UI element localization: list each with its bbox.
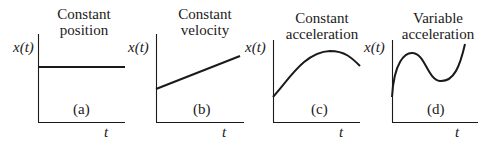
- panel-c-title: Constant acceleration: [280, 10, 364, 42]
- panel-d-label: (d): [427, 101, 445, 118]
- panel-b-xlabel: t: [222, 124, 226, 141]
- panel-d-curve: [392, 44, 465, 97]
- panel-a-xlabel: t: [104, 124, 108, 141]
- panel-c-curve: [273, 51, 360, 97]
- panel-b-curve: [156, 56, 240, 89]
- panel-a-title: Constant position: [42, 6, 126, 38]
- panel-b-title: Constant velocity: [163, 6, 247, 38]
- panel-d-xlabel: t: [455, 124, 459, 141]
- panel-c-xlabel: t: [339, 124, 343, 141]
- panel-b-label: (b): [193, 101, 211, 118]
- panel-c-label: (c): [311, 101, 328, 118]
- panel-b-ylabel: x(t): [128, 39, 149, 56]
- panel-d-title: Variable acceleration: [396, 10, 480, 42]
- panel-a-ylabel: x(t): [13, 39, 34, 56]
- panel-a-label: (a): [73, 101, 90, 118]
- panel-d-ylabel: x(t): [364, 39, 385, 56]
- panel-c-ylabel: x(t): [245, 39, 266, 56]
- motion-graphs-figure: Constant position x(t) (a) t Constant ve…: [0, 0, 492, 143]
